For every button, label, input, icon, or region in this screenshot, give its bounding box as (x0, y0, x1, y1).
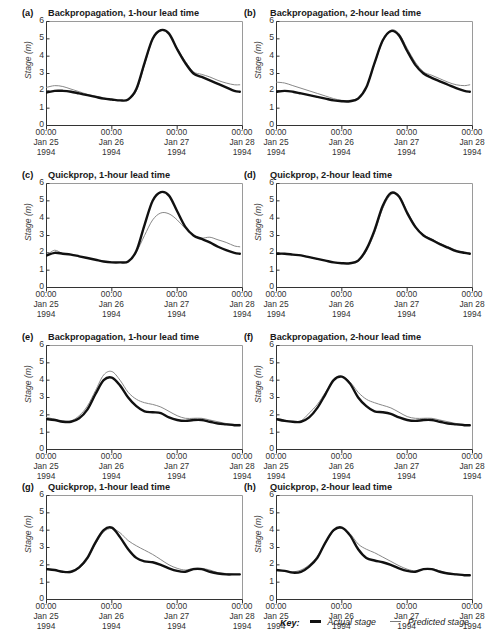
x-tick-date: Jan 27 (154, 461, 200, 471)
y-tick-label: 3 (262, 542, 274, 551)
plot-frame (277, 22, 473, 126)
x-tick-time: 00:00 (318, 127, 364, 137)
series-predicted-stage (47, 528, 240, 574)
series-actual-stage (277, 377, 470, 426)
plot-axes (47, 22, 243, 126)
y-tick-label: 6 (262, 340, 274, 349)
x-tick-date: Jan 26 (88, 461, 134, 471)
y-tick-label: 5 (32, 507, 44, 516)
panel-title: Backpropagation, 1-hour lead time (48, 332, 199, 342)
y-axis-ticks: 6543210 (260, 183, 274, 287)
x-tick-date: Jan 26 (318, 461, 364, 471)
y-tick-label: 2 (32, 559, 44, 568)
actual-stage-line-icon (310, 620, 321, 623)
x-tick-date: Jan 25 (23, 461, 69, 471)
plot-frame (277, 346, 473, 450)
plot-frame (47, 22, 243, 126)
panel-title: Quickprop, 2-hour lead time (270, 170, 392, 180)
chart-svg (276, 21, 474, 133)
y-tick-label: 6 (262, 178, 274, 187)
x-tick-year: 1994 (154, 471, 200, 481)
plot-area: Stage (m)654321000:00Jan 25199400:00Jan … (14, 183, 257, 330)
y-tick-label: 4 (32, 375, 44, 384)
plot-area: Stage (m)654321000:00Jan 25199400:00Jan … (244, 345, 487, 492)
x-tick-label: 00:00Jan 261994 (88, 289, 134, 320)
x-axis-ticks: 00:00Jan 25199400:00Jan 26199400:00Jan 2… (46, 289, 242, 329)
plot-frame (277, 496, 473, 600)
figure-container: (a)Backpropagation, 1-hour lead timeStag… (0, 0, 487, 638)
y-tick-label: 6 (32, 490, 44, 499)
plot-frame (47, 346, 243, 450)
x-tick-date: Jan 28 (449, 461, 487, 471)
y-tick-label: 5 (262, 357, 274, 366)
x-tick-year: 1994 (88, 471, 134, 481)
x-tick-label: 00:00Jan 271994 (384, 451, 430, 482)
y-tick-label: 2 (32, 85, 44, 94)
series-actual-stage (47, 192, 240, 263)
x-tick-date: Jan 26 (318, 299, 364, 309)
x-tick-date: Jan 27 (154, 299, 200, 309)
plot-axes (277, 496, 473, 600)
y-tick-label: 2 (32, 247, 44, 256)
x-tick-time: 00:00 (88, 451, 134, 461)
y-tick-label: 3 (32, 542, 44, 551)
y-tick-label: 1 (32, 427, 44, 436)
panel-letter: (h) (244, 482, 256, 492)
x-tick-time: 00:00 (88, 289, 134, 299)
y-axis-ticks: 6543210 (30, 183, 44, 287)
chart-svg (46, 495, 244, 607)
x-tick-time: 00:00 (23, 289, 69, 299)
x-tick-year: 1994 (253, 147, 299, 157)
x-tick-label: 00:00Jan 271994 (154, 289, 200, 320)
x-tick-label: 00:00Jan 251994 (23, 127, 69, 158)
x-tick-date: Jan 27 (384, 137, 430, 147)
y-tick-label: 1 (262, 577, 274, 586)
x-tick-label: 00:00Jan 281994 (449, 451, 487, 482)
x-tick-time: 00:00 (449, 601, 487, 611)
x-tick-year: 1994 (384, 309, 430, 319)
y-axis-ticks: 6543210 (30, 345, 44, 449)
plot-area: Stage (m)654321000:00Jan 25199400:00Jan … (244, 21, 487, 168)
x-tick-time: 00:00 (23, 127, 69, 137)
panel-title: Backpropagation, 2-hour lead time (270, 332, 421, 342)
x-tick-time: 00:00 (449, 127, 487, 137)
x-tick-year: 1994 (318, 471, 364, 481)
chart-svg (46, 21, 244, 133)
x-tick-label: 00:00Jan 271994 (154, 451, 200, 482)
x-tick-date: Jan 25 (23, 299, 69, 309)
x-tick-label: 00:00Jan 261994 (318, 127, 364, 158)
y-tick-label: 4 (262, 375, 274, 384)
y-tick-label: 5 (32, 33, 44, 42)
x-tick-time: 00:00 (318, 451, 364, 461)
y-tick-label: 1 (262, 103, 274, 112)
y-tick-label: 1 (262, 265, 274, 274)
series-predicted-stage (277, 377, 470, 426)
plot-axes (277, 22, 473, 126)
y-axis-ticks: 6543210 (260, 21, 274, 125)
y-tick-label: 4 (262, 51, 274, 60)
x-tick-time: 00:00 (384, 451, 430, 461)
plot-area: Stage (m)654321000:00Jan 25199400:00Jan … (244, 183, 487, 330)
x-tick-date: Jan 27 (384, 461, 430, 471)
series-predicted-stage (47, 371, 240, 424)
panel-title: Quickprop, 1-hour lead time (48, 482, 170, 492)
key-item-actual-stage: Actual stage (310, 612, 376, 630)
x-tick-time: 00:00 (154, 601, 200, 611)
y-tick-label: 3 (32, 68, 44, 77)
y-tick-label: 5 (32, 195, 44, 204)
x-tick-year: 1994 (449, 309, 487, 319)
x-tick-date: Jan 28 (449, 299, 487, 309)
x-tick-label: 00:00Jan 281994 (449, 289, 487, 320)
x-tick-year: 1994 (88, 147, 134, 157)
x-tick-date: Jan 25 (253, 137, 299, 147)
y-tick-label: 2 (262, 85, 274, 94)
x-tick-year: 1994 (449, 471, 487, 481)
plot-area: Stage (m)654321000:00Jan 25199400:00Jan … (14, 345, 257, 492)
x-tick-year: 1994 (23, 147, 69, 157)
series-actual-stage (47, 527, 240, 574)
chart-svg (46, 183, 244, 295)
x-tick-time: 00:00 (449, 289, 487, 299)
y-tick-label: 6 (262, 16, 274, 25)
x-tick-year: 1994 (384, 471, 430, 481)
x-tick-year: 1994 (318, 147, 364, 157)
